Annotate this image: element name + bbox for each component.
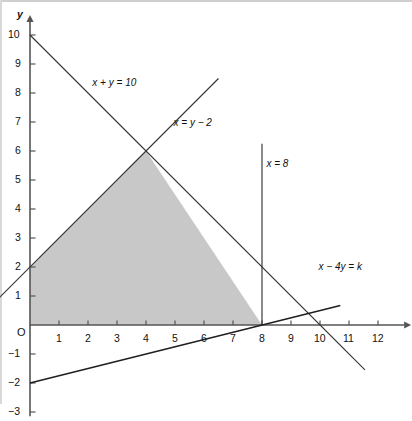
x-tick-label-3: 3 <box>114 333 120 344</box>
x-tick-label-7: 7 <box>230 333 236 344</box>
y-tick-label-8: 8 <box>15 87 21 98</box>
x-tick-label-1: 1 <box>56 333 62 344</box>
x-tick-label-2: 2 <box>85 333 91 344</box>
y-tick-label-neg1: −1 <box>8 348 20 359</box>
x-tick-label-8: 8 <box>259 333 265 344</box>
x-tick-label-12: 12 <box>372 333 384 344</box>
shaded-feasible-region <box>30 151 262 325</box>
x-tick-label-6: 6 <box>201 333 207 344</box>
y-tick-label-2: 2 <box>15 261 21 272</box>
annotation-x8-text: x = 8 <box>266 158 288 169</box>
y-tick-label-4: 4 <box>15 203 21 214</box>
y-tick-label-5: 5 <box>15 174 21 185</box>
origin-label: O <box>17 327 26 338</box>
feasible-region-polygon <box>30 151 262 325</box>
y-axis-arrowhead <box>26 15 33 22</box>
annotation-x-equals-y-minus-2: x = y − 2 <box>174 118 212 128</box>
y-tick-label-9: 9 <box>15 58 21 69</box>
graph-figure: y x O x + y = 10 x = y − 2 x = 8 x − 4y … <box>0 0 412 421</box>
x-tick-label-4: 4 <box>143 333 149 344</box>
plot-area <box>0 0 412 421</box>
x-tick-label-5: 5 <box>172 333 178 344</box>
y-tick-label-3: 3 <box>15 232 21 243</box>
y-tick-label-6: 6 <box>15 145 21 156</box>
y-tick-label-neg2: −2 <box>8 377 20 388</box>
annotation-objective-text: x − 4y = k <box>319 261 362 272</box>
y-tick-label-7: 7 <box>15 116 21 127</box>
y-tick-label-10: 10 <box>8 29 20 40</box>
x-tick-label-11: 11 <box>343 333 354 344</box>
y-tick-label-1: 1 <box>15 290 21 301</box>
x-axis-arrowhead <box>404 321 411 328</box>
x-tick-label-10: 10 <box>314 333 326 344</box>
y-axis-label: y <box>17 9 23 20</box>
annotation-sum-text: x + y = 10 <box>92 77 136 88</box>
annotation-x-equals-8: x = 8 <box>266 159 288 169</box>
annotation-x-plus-y-equals-10: x + y = 10 <box>92 78 136 88</box>
y-tick-label-neg3: −3 <box>8 406 20 417</box>
annotation-x-minus-4y-equals-k: x − 4y = k <box>319 262 362 272</box>
annotation-xy2-text: x = y − 2 <box>174 117 212 128</box>
x-tick-label-9: 9 <box>288 333 294 344</box>
